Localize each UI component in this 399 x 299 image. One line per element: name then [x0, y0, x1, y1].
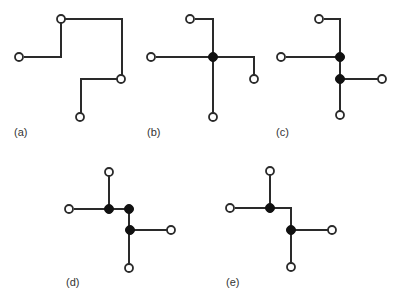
terminal-node [167, 226, 175, 234]
terminal-node [266, 167, 274, 175]
panel-d: (d) [65, 168, 175, 288]
terminal-node [76, 113, 84, 121]
steiner-point [336, 75, 345, 84]
steiner-tree-diagrams: (a)(b)(c)(d)(e) [0, 0, 399, 299]
terminal-node [65, 205, 73, 213]
terminal-node [147, 53, 155, 61]
panel-label: (e) [226, 276, 239, 288]
panel-a: (a) [14, 15, 125, 138]
terminal-node [250, 75, 258, 83]
terminal-node [328, 226, 336, 234]
wire-segment [65, 19, 122, 75]
wire-segment [235, 208, 291, 263]
terminal-node [117, 75, 125, 83]
terminal-node [226, 204, 234, 212]
terminal-node [315, 15, 323, 23]
panel-c: (c) [276, 15, 386, 138]
steiner-point [287, 226, 296, 235]
steiner-point [266, 204, 275, 213]
steiner-point [126, 226, 135, 235]
steiner-point [125, 205, 134, 214]
terminal-node [105, 168, 113, 176]
wire-segment [81, 79, 117, 113]
wire-segment [195, 19, 213, 113]
wire-segment [324, 19, 340, 111]
wire-segment [74, 209, 129, 264]
panel-label: (a) [14, 126, 27, 138]
terminal-node [57, 15, 65, 23]
panel-label: (b) [147, 126, 160, 138]
panel-label: (c) [276, 126, 289, 138]
terminal-node [378, 75, 386, 83]
terminal-node [186, 15, 194, 23]
terminal-node [209, 113, 217, 121]
terminal-node [336, 111, 344, 119]
panel-b: (b) [147, 15, 258, 138]
steiner-point [105, 205, 114, 214]
wire-segment [156, 57, 254, 75]
steiner-point [209, 53, 218, 62]
panel-e: (e) [226, 167, 336, 288]
terminal-node [125, 264, 133, 272]
terminal-node [277, 53, 285, 61]
terminal-node [15, 53, 23, 61]
terminal-node [287, 263, 295, 271]
steiner-point [336, 53, 345, 62]
wire-segment [24, 23, 61, 57]
panel-label: (d) [66, 276, 79, 288]
